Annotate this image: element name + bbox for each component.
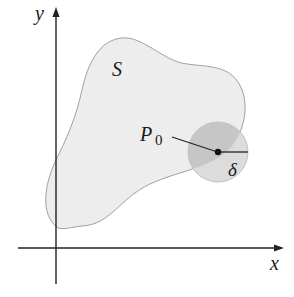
region-label: S (112, 58, 122, 80)
y-axis-arrow-icon (53, 7, 60, 17)
delta-label: δ (228, 159, 238, 180)
point-label-subscript: 0 (155, 132, 163, 148)
diagram-canvas: y x S P 0 δ (0, 0, 294, 297)
region-diagram: y x S P 0 δ (0, 0, 294, 297)
point-p0 (215, 149, 221, 155)
y-axis-label: y (33, 2, 44, 25)
x-axis-label: x (269, 252, 279, 274)
point-label: P (139, 123, 152, 145)
x-axis-arrow-icon (274, 245, 284, 252)
